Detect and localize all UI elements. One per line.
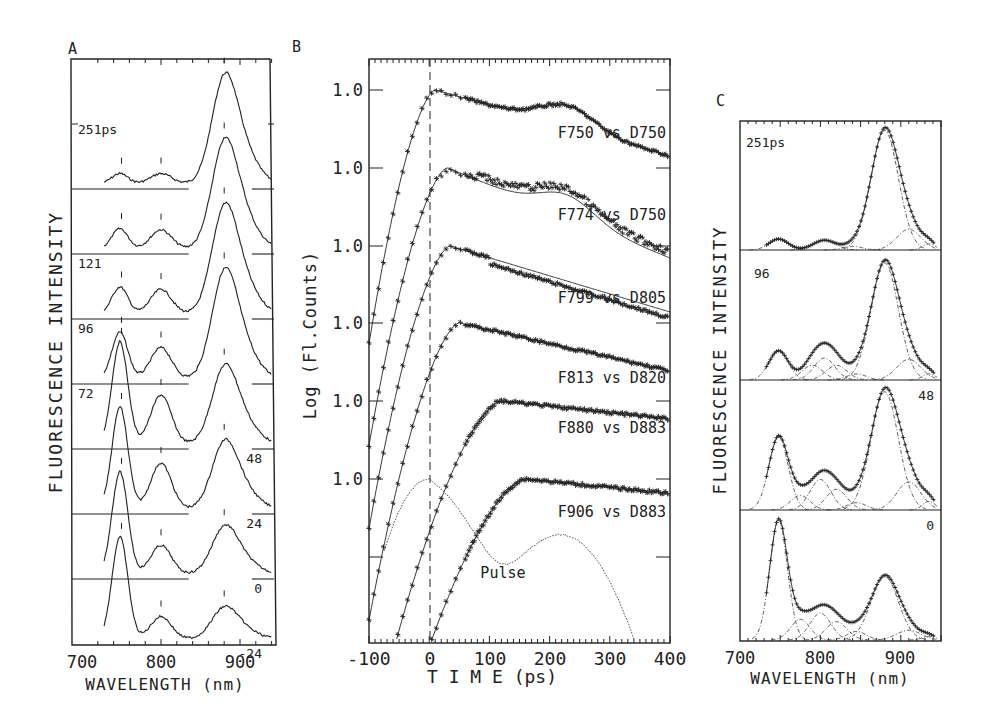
total-fit bbox=[767, 388, 935, 502]
gaussian-component bbox=[873, 482, 937, 510]
spectrum-label: 96 bbox=[754, 266, 770, 281]
data-point bbox=[891, 398, 895, 402]
data-point bbox=[769, 559, 773, 563]
data-point bbox=[371, 592, 376, 597]
data-point bbox=[395, 385, 400, 390]
x-tick-label: 300 bbox=[594, 648, 627, 669]
data-point bbox=[429, 637, 434, 642]
spectrum-72 bbox=[104, 268, 271, 377]
y-tick-label: 1.0 bbox=[332, 236, 363, 256]
data-point bbox=[861, 468, 865, 472]
data-point bbox=[789, 578, 793, 582]
data-point bbox=[901, 604, 905, 608]
data-point bbox=[391, 211, 396, 216]
data-point bbox=[367, 444, 372, 449]
data-point bbox=[915, 477, 919, 481]
total-fit bbox=[767, 260, 935, 374]
panel-c-x-axis-title: WAVELENGTH (nm) bbox=[750, 669, 910, 688]
panel-a-spectra: 251ps121967248240-24 bbox=[72, 57, 274, 661]
data-point bbox=[765, 474, 769, 478]
data-point bbox=[386, 235, 391, 240]
data-point bbox=[923, 630, 927, 634]
data-point bbox=[439, 88, 444, 93]
data-point bbox=[807, 244, 811, 248]
spectrum-label: 24 bbox=[246, 516, 262, 531]
data-point bbox=[901, 312, 905, 316]
data-point bbox=[911, 345, 915, 349]
data-point bbox=[453, 170, 458, 175]
data-point bbox=[897, 595, 901, 599]
data-point bbox=[865, 324, 869, 328]
data-point bbox=[903, 320, 907, 324]
data-point bbox=[381, 260, 386, 265]
data-point bbox=[769, 357, 773, 361]
data-point bbox=[434, 354, 439, 359]
data-point bbox=[415, 224, 420, 229]
data-point bbox=[869, 434, 873, 438]
data-point bbox=[391, 318, 396, 323]
data-point bbox=[899, 304, 903, 308]
data-point bbox=[448, 93, 453, 98]
data-point bbox=[793, 476, 797, 480]
data-point bbox=[825, 603, 829, 607]
total-fit bbox=[767, 127, 935, 248]
gaussian-component bbox=[844, 263, 926, 379]
data-point bbox=[871, 295, 875, 299]
data-point bbox=[548, 180, 553, 185]
data-point bbox=[415, 120, 420, 125]
data-point bbox=[905, 612, 909, 616]
data-point bbox=[586, 197, 591, 202]
data-point bbox=[444, 92, 449, 97]
data-point bbox=[829, 239, 833, 243]
gaussian-component bbox=[805, 365, 868, 379]
data-point bbox=[907, 456, 911, 460]
panel-label-a: A bbox=[68, 40, 77, 58]
data-point bbox=[410, 328, 415, 333]
data-point bbox=[434, 626, 439, 631]
data-point bbox=[795, 602, 799, 606]
data-point bbox=[495, 177, 500, 182]
data-point bbox=[867, 443, 871, 447]
data-point bbox=[883, 573, 887, 577]
data-point bbox=[410, 583, 415, 588]
data-point bbox=[458, 566, 463, 571]
data-point bbox=[909, 340, 913, 344]
data-point bbox=[897, 420, 901, 424]
data-point bbox=[875, 277, 879, 281]
data-point bbox=[803, 246, 807, 250]
data-point bbox=[851, 620, 855, 624]
data-point bbox=[410, 134, 415, 139]
data-point bbox=[911, 468, 915, 472]
gaussian-component bbox=[771, 495, 829, 509]
data-point bbox=[871, 592, 875, 596]
data-point bbox=[546, 186, 551, 191]
data-point bbox=[395, 481, 400, 486]
data-point bbox=[434, 508, 439, 513]
data-point bbox=[419, 394, 424, 399]
panel-a-ticks bbox=[72, 59, 274, 645]
data-point bbox=[777, 349, 781, 353]
data-point bbox=[458, 96, 463, 101]
data-point bbox=[793, 596, 797, 600]
x-tick-label: 900 bbox=[225, 652, 256, 672]
data-point bbox=[899, 173, 903, 177]
data-point bbox=[905, 197, 909, 201]
gaussian-component bbox=[844, 392, 926, 509]
data-point bbox=[444, 599, 449, 604]
data-point bbox=[913, 473, 917, 477]
data-point bbox=[867, 314, 871, 318]
x-tick-label: 700 bbox=[725, 648, 756, 668]
data-point bbox=[386, 339, 391, 344]
data-point bbox=[400, 279, 405, 284]
data-point bbox=[779, 519, 783, 523]
panel-c-ticks bbox=[748, 121, 941, 641]
data-point bbox=[875, 405, 879, 409]
panel-a-y-axis-title: FLUORESCENCE INTENSITY bbox=[45, 211, 66, 493]
data-point bbox=[789, 465, 793, 469]
data-point bbox=[367, 617, 372, 622]
data-point bbox=[386, 427, 391, 432]
panel-c-decompositions: 251ps96480 bbox=[740, 125, 941, 640]
data-point bbox=[805, 245, 809, 249]
x-tick-label: -100 bbox=[347, 648, 390, 669]
data-point bbox=[444, 484, 449, 489]
